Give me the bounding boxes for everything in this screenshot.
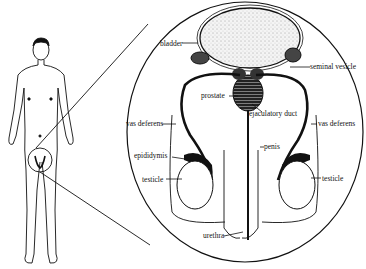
label-vas-deferens-right: vas deferens: [318, 120, 355, 128]
label-prostate: prostate: [201, 92, 225, 100]
seminal-vesicle-right: [285, 48, 301, 62]
label-epididymis: epididymis: [134, 152, 167, 160]
testicle-right-shape: [279, 161, 315, 209]
label-testicle-right: testicle: [322, 175, 343, 183]
prostate-shape: [233, 75, 263, 111]
label-penis: penis: [264, 143, 280, 151]
seminal-vesicle-left: [191, 52, 209, 64]
label-urethra: urethra: [203, 232, 224, 240]
label-ejaculatory-duct: ejaculatory duct: [249, 110, 297, 118]
label-seminal-vesicle: seminal vesicle: [310, 63, 356, 71]
bladder-shape: [200, 8, 300, 68]
label-testicle-left: testicle: [142, 176, 163, 184]
human-figure: [9, 38, 73, 263]
testicle-left-shape: [177, 161, 213, 209]
label-vas-deferens-left: vas deferens: [126, 120, 163, 128]
label-bladder: bladder: [160, 40, 183, 48]
diagram: bladder seminal vesicle prostate ejacula…: [0, 0, 366, 269]
